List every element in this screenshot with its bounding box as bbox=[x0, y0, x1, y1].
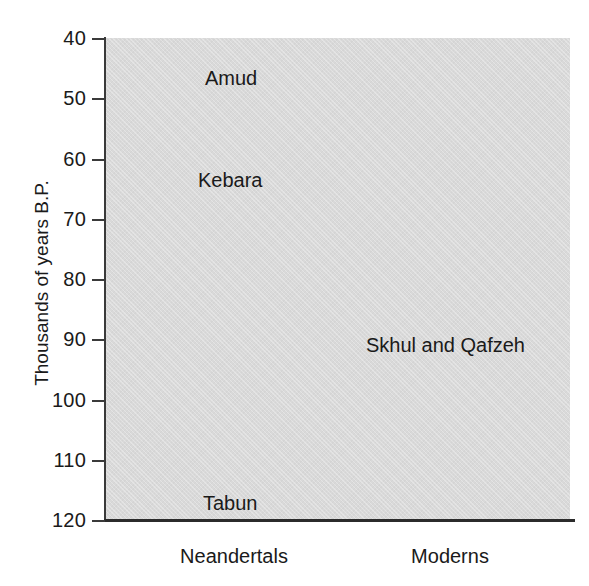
y-axis-tick-label-110: 110 bbox=[0, 450, 92, 470]
y-axis-tick-label-50: 50 bbox=[0, 88, 92, 108]
x-axis-category-neandertals: Neandertals bbox=[128, 545, 340, 567]
y-axis-tick-80 bbox=[92, 279, 105, 281]
y-axis-tick-100 bbox=[92, 400, 105, 402]
y-axis-tick-90 bbox=[92, 339, 105, 341]
y-axis-tick-label-40: 40 bbox=[0, 28, 92, 48]
y-axis-tick-label-120: 120 bbox=[0, 510, 92, 530]
y-axis-tick-50 bbox=[92, 98, 105, 100]
y-axis-tick-120 bbox=[92, 520, 105, 522]
y-axis-tick-label-wrap-40: 40 bbox=[0, 28, 92, 48]
x-axis-category-moderns: Moderns bbox=[370, 545, 530, 567]
y-axis-tick-label-wrap-120: 120 bbox=[0, 510, 92, 530]
data-label-kebara: Kebara bbox=[198, 169, 263, 191]
chart-figure: 40 50 60 70 80 90 100 110 120 Thousands … bbox=[0, 0, 589, 586]
y-axis-tick-40 bbox=[92, 38, 105, 40]
plot-area bbox=[106, 38, 570, 520]
data-label-skhul-and-qafzeh: Skhul and Qafzeh bbox=[366, 334, 525, 356]
data-label-tabun: Tabun bbox=[203, 492, 258, 514]
x-axis-line bbox=[104, 519, 575, 522]
y-axis-tick-label-wrap-110: 110 bbox=[0, 450, 92, 470]
y-axis-tick-label-wrap-50: 50 bbox=[0, 88, 92, 108]
y-axis-title: Thousands of years B.P. bbox=[32, 138, 52, 428]
y-axis-tick-110 bbox=[92, 460, 105, 462]
y-axis-tick-70 bbox=[92, 219, 105, 221]
y-axis-tick-60 bbox=[92, 159, 105, 161]
data-label-amud: Amud bbox=[205, 67, 257, 89]
